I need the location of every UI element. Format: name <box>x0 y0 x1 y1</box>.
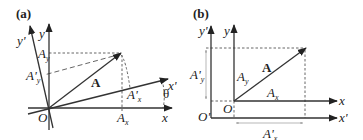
panel-b: (b) y' y A'y Ay A Ax x x' O O' A'x <box>189 6 348 140</box>
ay-label: Ay <box>37 46 50 63</box>
x-label: x <box>161 110 168 125</box>
y-label: y <box>222 23 230 38</box>
apx-label: A'x <box>126 87 142 104</box>
ax-label: Ax <box>266 85 279 102</box>
coordinate-diagram: (a) y' y Ay A'y A A'x θ x' Ax x O (b) <box>0 0 363 140</box>
apx-label: A'x <box>262 126 278 140</box>
apy-label: A'y <box>189 67 205 84</box>
origin-prime-label: O' <box>198 109 210 124</box>
y-prime-label: y' <box>15 33 26 48</box>
origin-label: O <box>223 101 233 116</box>
ay-label: Ay <box>236 69 249 86</box>
panel-b-label: (b) <box>193 6 209 21</box>
x-prime-label: x' <box>338 110 348 125</box>
apy-label: A'y <box>25 68 41 85</box>
vector-a-label: A <box>91 75 101 90</box>
y-label: y <box>37 26 45 41</box>
ax-label: Ax <box>116 110 129 127</box>
x-prime-label: x' <box>167 78 177 93</box>
panel-a-label: (a) <box>16 6 31 21</box>
y-prime-label: y' <box>197 23 208 38</box>
apy-projection-line <box>44 54 121 75</box>
x-label: x <box>338 93 345 108</box>
origin-label: O <box>38 110 48 125</box>
panel-a: (a) y' y Ay A'y A A'x θ x' Ax x O <box>15 6 177 130</box>
vector-a-label: A <box>262 60 272 75</box>
